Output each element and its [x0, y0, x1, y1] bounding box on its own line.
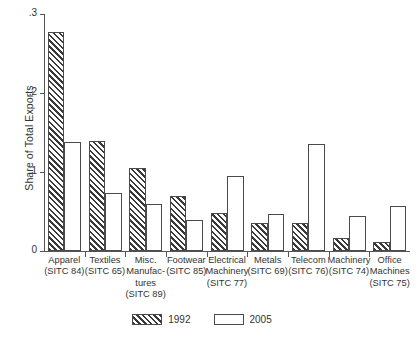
x-axis-label: ElectricalMachinery(SITC 77): [204, 255, 251, 289]
x-axis-label-line: Misc.: [122, 255, 169, 266]
x-axis-label-line: tures: [122, 278, 169, 289]
x-axis-label-line: Footwear: [163, 255, 210, 266]
bar-2005-8: [390, 206, 407, 251]
bars-layer: [44, 14, 410, 252]
bar-1992-5: [251, 223, 268, 251]
x-axis-label: Footwear(SITC 85): [163, 255, 210, 278]
hatched-swatch-icon: [132, 314, 162, 325]
bar-2005-5: [268, 214, 285, 251]
bar-chart: Share of Total Exports 0.1.2.3 Apparel(S…: [0, 0, 420, 338]
x-axis-label-line: (SITC 76): [285, 266, 332, 277]
bar-1992-6: [292, 223, 309, 251]
x-axis-label-line: (SITC 84): [41, 266, 88, 277]
open-swatch-icon: [214, 314, 244, 325]
chart-legend: 1992 2005: [0, 314, 420, 325]
x-axis-label: Machinery(SITC 74): [326, 255, 373, 278]
x-axis-label-line: (SITC 69): [244, 266, 291, 277]
bar-1992-7: [333, 238, 350, 251]
x-axis-label: OfficeMachines(SITC 75): [366, 255, 413, 289]
y-axis-title: Share of Total Exports: [23, 43, 35, 233]
y-tick-label: 0: [31, 244, 37, 255]
bar-1992-3: [170, 196, 187, 251]
bar-2005-3: [186, 220, 203, 251]
x-axis-label: Misc.Manufac-tures(SITC 89): [122, 255, 169, 301]
legend-label-1992: 1992: [168, 314, 190, 325]
y-tick-label: .1: [29, 165, 37, 176]
x-axis-label-line: Machines: [366, 266, 413, 277]
bar-2005-1: [105, 193, 122, 251]
x-axis-label-line: (SITC 65): [82, 266, 129, 277]
x-axis-label-line: (SITC 77): [204, 278, 251, 289]
x-axis-label-line: Machinery: [204, 266, 251, 277]
x-axis-label-line: (SITC 89): [122, 289, 169, 300]
bar-1992-2: [129, 168, 146, 251]
legend-label-2005: 2005: [250, 314, 272, 325]
x-axis-label-line: Manufac-: [122, 266, 169, 277]
bar-2005-0: [64, 142, 81, 251]
legend-item-1992: 1992: [132, 314, 206, 325]
bar-1992-8: [373, 242, 390, 251]
x-axis-label: Textiles(SITC 65): [82, 255, 129, 278]
x-axis-label: Apparel(SITC 84): [41, 255, 88, 278]
x-axis-label-line: Electrical: [204, 255, 251, 266]
x-axis-label-line: Apparel: [41, 255, 88, 266]
x-axis-label-line: Textiles: [82, 255, 129, 266]
legend-item-2005: 2005: [214, 314, 288, 325]
x-axis-label-line: (SITC 75): [366, 278, 413, 289]
x-axis-label-line: Metals: [244, 255, 291, 266]
bar-2005-2: [146, 204, 163, 251]
x-axis-label-line: Telecom: [285, 255, 332, 266]
bar-1992-0: [48, 32, 65, 251]
bar-1992-1: [89, 141, 106, 251]
x-axis-label: Metals(SITC 69): [244, 255, 291, 278]
y-tick-label: .2: [29, 86, 37, 97]
y-tick-label: .3: [29, 7, 37, 18]
plot-area: 0.1.2.3: [44, 14, 410, 251]
bar-2005-4: [227, 176, 244, 251]
x-axis-label: Telecom(SITC 76): [285, 255, 332, 278]
x-axis-label-line: Office: [366, 255, 413, 266]
bar-2005-6: [308, 144, 325, 251]
bar-2005-7: [349, 216, 366, 251]
x-axis-label-line: Machinery: [326, 255, 373, 266]
x-axis-label-line: (SITC 85): [163, 266, 210, 277]
bar-1992-4: [211, 213, 228, 251]
x-axis-label-line: (SITC 74): [326, 266, 373, 277]
x-axis-category-labels: Apparel(SITC 84)Textiles(SITC 65)Misc.Ma…: [44, 255, 410, 315]
